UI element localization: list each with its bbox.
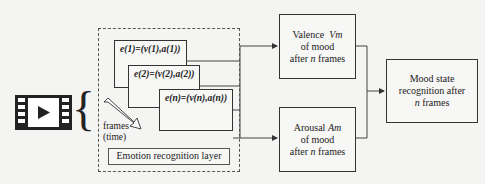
valence-after: after [290,53,308,64]
arousal-symbol: Am [328,122,341,133]
mood-line2: recognition after [399,85,465,97]
video-film-icon [15,95,72,130]
emotion-frame-n-label: e(n)=(v(n),a(n)) [165,93,227,103]
emotion-frame-n: e(n)=(v(n),a(n)) [159,89,233,131]
valence-frames: frames [318,53,345,64]
valence-label: Valence [292,29,324,40]
arousal-n: n [311,146,316,157]
valence-n: n [311,53,316,64]
mood-frames: frames [422,97,449,108]
valence-symbol: Vm [329,29,342,40]
arousal-frames: frames [318,146,345,157]
emotion-frame-1-label: e(1)=(v(1),a(1)) [120,44,181,54]
mood-state-box: Mood state recognition after n frames [386,59,478,123]
frames-label: frames [103,121,129,132]
arousal-label: Arousal [294,122,326,133]
valence-box: Valence Vm of mood after n frames [279,14,356,79]
mood-line1: Mood state [399,73,465,85]
emotion-layer-title: Emotion recognition layer [108,148,230,165]
arousal-after: after [290,146,308,157]
arousal-line2: of mood [290,134,346,146]
time-label: (time) [103,132,126,143]
arousal-box: Arousal Am of mood after n frames [279,107,356,172]
emotion-frame-2-label: e(2)=(v(2),a(2)) [134,69,195,79]
valence-line2: of mood [290,41,346,53]
brace-icon: { [72,82,95,136]
mood-n: n [415,97,420,108]
